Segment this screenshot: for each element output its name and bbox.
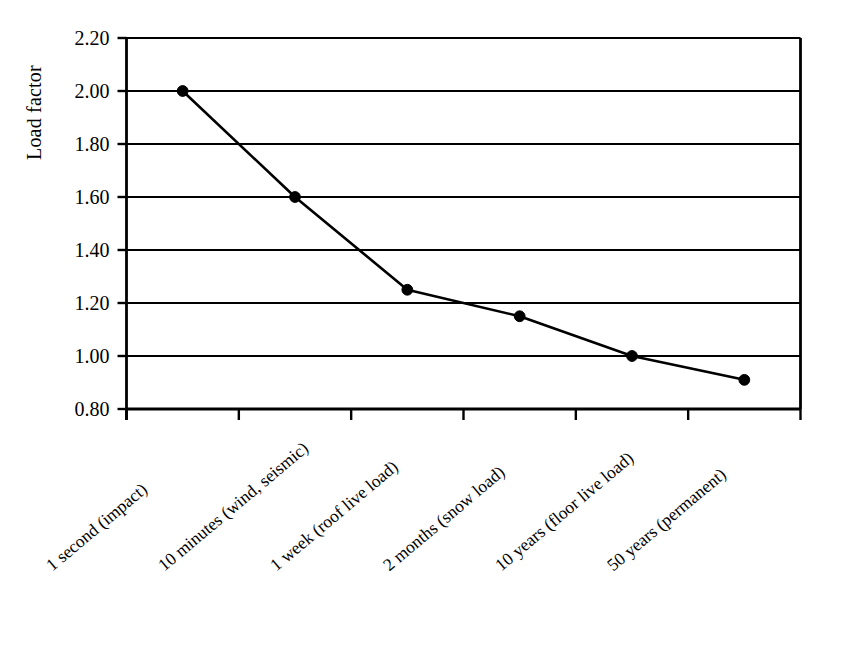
data-point-marker bbox=[402, 284, 413, 295]
y-axis-tick-label: 1.00 bbox=[40, 346, 110, 366]
data-point-marker bbox=[514, 311, 525, 322]
y-axis-tick-label: 1.40 bbox=[40, 240, 110, 260]
data-point-marker bbox=[177, 86, 188, 97]
y-axis-tick-label: 1.80 bbox=[40, 134, 110, 154]
y-axis-tick-label: 1.60 bbox=[40, 187, 110, 207]
data-point-marker bbox=[739, 374, 750, 385]
data-point-marker bbox=[290, 192, 301, 203]
chart-canvas bbox=[0, 0, 842, 655]
y-axis-tick-label: 0.80 bbox=[40, 399, 110, 419]
y-axis-tick-label: 2.00 bbox=[40, 81, 110, 101]
y-axis-tick-label: 1.20 bbox=[40, 293, 110, 313]
data-point-marker bbox=[627, 351, 638, 362]
load-factor-chart: Load factor 2.202.001.801.601.401.201.00… bbox=[0, 0, 842, 655]
y-axis-tick-label: 2.20 bbox=[40, 28, 110, 48]
